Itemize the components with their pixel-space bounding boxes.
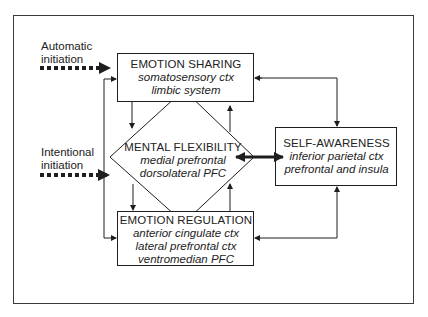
mental-flexibility-node: MENTAL FLEXIBILITY medial prefrontal dor…: [112, 141, 254, 180]
emotion-regulation-region: ventromedian PFC: [118, 253, 254, 266]
emotion-sharing-region: limbic system: [118, 84, 254, 97]
emotion-regulation-node: EMOTION REGULATION anterior cingulate ct…: [118, 214, 254, 266]
self-awareness-node: SELF-AWARENESS inferior parietal ctx pre…: [276, 137, 397, 176]
automatic-initiation-label: Automatic initiation: [41, 40, 92, 66]
emotion-sharing-region: somatosensory ctx: [118, 71, 254, 84]
emotion-sharing-node: EMOTION SHARING somatosensory ctx limbic…: [118, 58, 254, 97]
emotion-regulation-region: anterior cingulate ctx: [118, 227, 254, 240]
sa-er-connector: [255, 194, 337, 238]
automatic-label-line2: initiation: [41, 53, 92, 66]
automatic-label-line1: Automatic: [41, 40, 92, 53]
intentional-label-line1: Intentional: [41, 146, 94, 159]
emotion-regulation-title: EMOTION REGULATION: [118, 214, 254, 227]
mental-flexibility-region: medial prefrontal: [112, 154, 254, 167]
es-sa-connector: [255, 78, 337, 126]
mental-flexibility-region: dorsolateral PFC: [112, 167, 254, 180]
emotion-sharing-title: EMOTION SHARING: [118, 58, 254, 71]
mental-flexibility-title: MENTAL FLEXIBILITY: [112, 141, 254, 154]
emotion-regulation-region: lateral prefrontal ctx: [118, 240, 254, 253]
left-loop-connector: [104, 79, 116, 140]
intentional-label-line2: initiation: [41, 159, 94, 172]
self-awareness-region: inferior parietal ctx: [276, 150, 397, 163]
self-awareness-title: SELF-AWARENESS: [276, 137, 397, 150]
self-awareness-region: prefrontal and insula: [276, 163, 397, 176]
intentional-initiation-label: Intentional initiation: [41, 146, 94, 172]
